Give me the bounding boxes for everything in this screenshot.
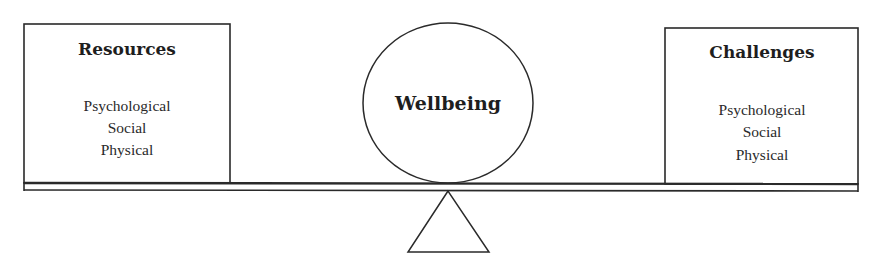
challenges-box: Challenges Psychological Social Physical [665,28,858,184]
balance-beam [24,182,858,192]
wellbeing-circle: Wellbeing [363,23,533,183]
challenges-item-social: Social [743,123,782,140]
challenges-item-physical: Physical [736,146,789,163]
challenges-item-psychological: Psychological [719,101,806,118]
wellbeing-label: Wellbeing [394,92,501,114]
beam-top-line [24,183,858,184]
resources-item-physical: Physical [101,141,154,158]
resources-box: Resources Psychological Social Physical [24,24,230,183]
resources-item-social: Social [108,119,147,136]
resources-item-psychological: Psychological [84,97,171,114]
resources-title: Resources [78,39,176,59]
challenges-title: Challenges [709,42,814,62]
beam-bottom-line [24,190,858,191]
fulcrum-triangle [408,191,489,252]
wellbeing-balance-diagram: Resources Psychological Social Physical … [0,0,876,269]
